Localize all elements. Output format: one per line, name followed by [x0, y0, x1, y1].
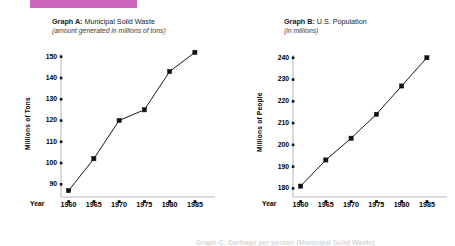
y-tick-label: 230 — [267, 75, 289, 82]
x-tick-label: 1960 — [55, 200, 83, 209]
y-tick-label: 100 — [35, 159, 57, 166]
y-tick-label: 110 — [35, 138, 57, 145]
y-tick-label: 220 — [267, 97, 289, 104]
graph-a-x-axis-name: Year — [30, 200, 44, 207]
footer-caption: Graph C: Garbage per person (Municipal S… — [196, 239, 375, 246]
y-tick-label: 120 — [35, 116, 57, 123]
y-tick-label: 140 — [35, 74, 57, 81]
x-tick-label: 1975 — [130, 200, 158, 209]
y-tick-label: 90 — [35, 180, 57, 187]
x-tick-label: 1980 — [156, 200, 184, 209]
chart-panel-graph-b: Graph B: U.S. Population (in millions) M… — [232, 0, 455, 246]
x-tick-label: 1985 — [181, 200, 209, 209]
textbook-figure-page: Graph A: Municipal Solid Waste (amount g… — [0, 0, 455, 246]
chart-panel-graph-a: Graph A: Municipal Solid Waste (amount g… — [0, 0, 232, 246]
x-tick-label: 1985 — [413, 200, 441, 209]
x-tick-label: 1970 — [105, 200, 133, 209]
y-tick-label: 240 — [267, 54, 289, 61]
y-tick-label: 210 — [267, 119, 289, 126]
graph-b-plot — [232, 0, 455, 246]
x-tick-label: 1965 — [312, 200, 340, 209]
y-tick-label: 200 — [267, 141, 289, 148]
y-tick-label: 130 — [35, 95, 57, 102]
y-tick-label: 150 — [35, 53, 57, 60]
y-tick-label: 190 — [267, 163, 289, 170]
x-tick-label: 1980 — [388, 200, 416, 209]
graph-b-x-axis-name: Year — [262, 200, 276, 207]
x-tick-label: 1960 — [287, 200, 315, 209]
x-tick-label: 1975 — [362, 200, 390, 209]
y-tick-label: 180 — [267, 184, 289, 191]
x-tick-label: 1970 — [337, 200, 365, 209]
x-tick-label: 1965 — [80, 200, 108, 209]
